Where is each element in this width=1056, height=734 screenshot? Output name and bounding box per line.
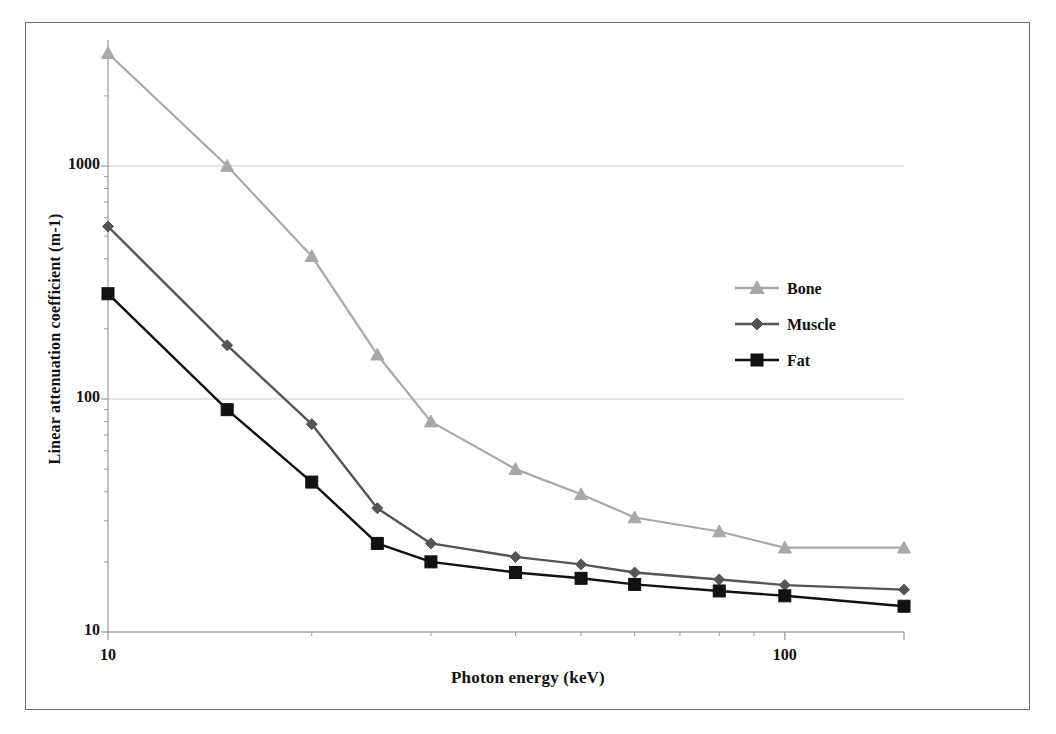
- chart-figure: BoneMuscleFat Linear attenuation coeffic…: [0, 0, 1056, 734]
- legend-item-fat: Fat: [735, 352, 811, 369]
- data-point-muscle: [714, 574, 725, 585]
- data-point-fat: [629, 578, 641, 590]
- grid-lines: [108, 166, 904, 632]
- data-point-bone: [628, 511, 641, 523]
- data-point-muscle: [629, 567, 640, 578]
- y-tick-label: 10: [12, 621, 100, 639]
- line-bone: [108, 53, 904, 548]
- x-tick-label: 100: [745, 646, 825, 664]
- data-point-fat: [371, 537, 383, 549]
- data-point-fat: [221, 404, 233, 416]
- legend-label-bone: Bone: [787, 280, 822, 297]
- y-axis-ticks: [101, 55, 108, 632]
- y-tick-label: 1000: [12, 155, 100, 173]
- y-axis-title: Linear attenuation coefficient (m-1): [46, 214, 63, 465]
- linear-attenuation-coefficient-chart: BoneMuscleFat: [0, 0, 1056, 734]
- legend: BoneMuscleFat: [735, 280, 836, 369]
- data-point-fat: [425, 556, 437, 568]
- data-point-bone: [371, 348, 384, 360]
- data-point-muscle: [899, 584, 910, 595]
- data-point-bone: [102, 47, 115, 59]
- data-point-fat: [306, 476, 318, 488]
- legend-label-fat: Fat: [787, 352, 811, 369]
- series-fat: [102, 288, 910, 612]
- legend-marker-fat: [751, 354, 763, 366]
- data-point-muscle: [576, 559, 587, 570]
- data-point-muscle: [510, 551, 521, 562]
- x-axis-ticks: [108, 632, 904, 640]
- data-point-fat: [509, 567, 521, 579]
- legend-item-muscle: Muscle: [735, 316, 836, 333]
- data-point-muscle: [779, 580, 790, 591]
- x-tick-label: 10: [68, 646, 148, 664]
- data-point-fat: [575, 572, 587, 584]
- y-tick-label: 100: [12, 388, 100, 406]
- data-point-bone: [509, 463, 522, 475]
- series-bone: [102, 47, 911, 553]
- legend-label-muscle: Muscle: [787, 316, 836, 333]
- legend-item-bone: Bone: [735, 280, 822, 297]
- x-axis-title: Photon energy (keV): [0, 668, 1056, 688]
- data-point-fat: [713, 585, 725, 597]
- data-point-fat: [102, 288, 114, 300]
- legend-marker-muscle: [751, 318, 763, 330]
- data-point-fat: [779, 590, 791, 602]
- data-point-fat: [898, 600, 910, 612]
